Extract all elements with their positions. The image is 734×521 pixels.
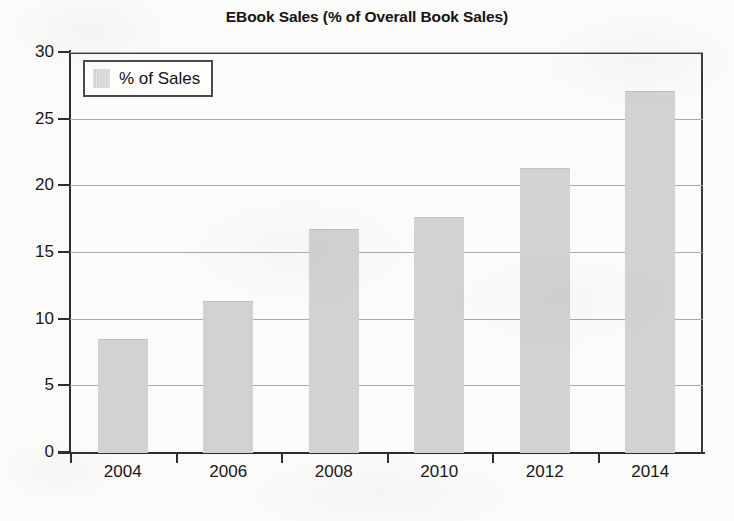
gridline	[70, 319, 703, 320]
gridline	[70, 52, 703, 53]
gridline	[70, 252, 703, 253]
y-axis-tick-label: 10	[8, 309, 54, 329]
y-axis-tick-labels: 051015202530	[0, 0, 54, 521]
x-axis-tick	[70, 452, 72, 463]
x-axis-tick	[492, 452, 494, 463]
legend-swatch-icon	[93, 69, 110, 88]
bar	[98, 339, 148, 453]
gridline	[70, 119, 703, 120]
bar	[520, 168, 570, 453]
gridline	[70, 385, 703, 386]
x-axis-tick	[176, 452, 178, 463]
x-axis-tick	[387, 452, 389, 463]
y-axis-tick-label: 20	[8, 175, 54, 195]
bar	[203, 301, 253, 453]
x-axis-tick-label: 2008	[289, 462, 379, 482]
x-axis-tick	[281, 452, 283, 463]
y-axis-tick-label: 25	[8, 109, 54, 129]
y-axis-tick-label: 0	[8, 442, 54, 462]
legend-label: % of Sales	[119, 69, 200, 89]
bar	[309, 229, 359, 453]
chart-title: EBook Sales (% of Overall Book Sales)	[0, 8, 734, 26]
plot-border-right	[701, 52, 703, 454]
y-axis-tick-label: 15	[8, 242, 54, 262]
y-axis-tick-label: 30	[8, 42, 54, 62]
bar-chart: EBook Sales (% of Overall Book Sales) 05…	[0, 0, 734, 521]
y-axis-tick-label: 5	[8, 375, 54, 395]
x-axis-tick-label: 2014	[605, 462, 695, 482]
bar	[625, 91, 675, 453]
x-axis-tick-label: 2012	[500, 462, 590, 482]
x-axis-tick-label: 2010	[394, 462, 484, 482]
x-axis-tick-label: 2004	[78, 462, 168, 482]
x-axis-tick-label: 2006	[183, 462, 273, 482]
gridline	[70, 185, 703, 186]
x-axis-tick	[598, 452, 600, 463]
bar	[414, 217, 464, 453]
plot-area	[70, 52, 703, 452]
chart-legend: % of Sales	[83, 60, 213, 97]
x-axis-line	[58, 452, 705, 454]
